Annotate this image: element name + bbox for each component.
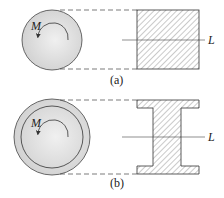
panel-b: M L (b) bbox=[14, 99, 215, 190]
panel-a: M L (a) bbox=[22, 10, 215, 87]
axis-label: L bbox=[207, 130, 215, 144]
diagram: M L (a) M L (b) bbox=[0, 0, 224, 198]
square-section bbox=[137, 10, 199, 69]
hollow-shaft-outer bbox=[14, 99, 90, 175]
axis-label: L bbox=[207, 33, 215, 47]
caption-a: (a) bbox=[110, 73, 123, 87]
moment-label: M bbox=[30, 19, 42, 33]
moment-label: M bbox=[30, 116, 42, 130]
caption-b: (b) bbox=[110, 176, 124, 190]
